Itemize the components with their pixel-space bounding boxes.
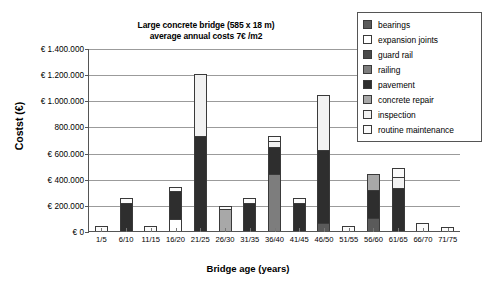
- y-axis-tick-label: 800.000: [12, 123, 89, 132]
- stacked-bar[interactable]: [194, 74, 207, 231]
- legend: bearingsexpansion jointsguard railrailin…: [357, 12, 482, 142]
- bar-segment[interactable]: [194, 136, 207, 231]
- legend-swatch-icon: [363, 80, 372, 89]
- legend-item-label: guard rail: [378, 50, 413, 60]
- bar-group: 26/30: [213, 49, 238, 231]
- bar-segment[interactable]: [317, 95, 330, 150]
- legend-item-label: railing: [378, 65, 400, 75]
- stacked-bar[interactable]: [293, 198, 306, 231]
- x-axis-tick-label: 31/35: [240, 235, 259, 244]
- legend-item[interactable]: bearings: [363, 17, 477, 32]
- legend-item-label: expansion joints: [378, 35, 438, 45]
- legend-swatch-icon: [363, 65, 372, 74]
- stacked-bar[interactable]: [367, 174, 380, 231]
- legend-swatch-icon: [363, 125, 372, 134]
- x-axis-tick-label: 6/10: [119, 235, 134, 244]
- x-axis-tick-mark: [126, 228, 127, 232]
- x-axis-tick-mark: [299, 228, 300, 232]
- bar-segment[interactable]: [293, 203, 306, 231]
- legend-item-list: bearingsexpansion jointsguard railrailin…: [363, 17, 477, 137]
- legend-item-label: routine maintenance: [378, 125, 454, 135]
- legend-swatch-icon: [363, 50, 372, 59]
- bar-segment[interactable]: [317, 150, 330, 223]
- legend-swatch-icon: [363, 20, 372, 29]
- stacked-bar[interactable]: [268, 136, 281, 231]
- bar-segment[interactable]: [392, 177, 405, 187]
- x-axis-tick-label: 66/70: [413, 235, 432, 244]
- y-axis-tick-label: € 200.000: [12, 201, 89, 210]
- legend-item[interactable]: pavement: [363, 77, 477, 92]
- x-axis-tick-mark: [101, 228, 102, 232]
- stacked-bar[interactable]: [317, 95, 330, 231]
- legend-item[interactable]: railing: [363, 62, 477, 77]
- legend-item-label: concrete repair: [378, 95, 434, 105]
- bar-segment[interactable]: [392, 188, 405, 231]
- x-axis-tick-label: 61/65: [389, 235, 408, 244]
- y-axis-tick-label: € 0: [12, 228, 89, 237]
- y-axis-tick-label: € 1.400.000: [12, 45, 89, 54]
- y-axis-tick-label: € 1.000.000: [12, 97, 89, 106]
- x-axis-tick-label: 16/20: [166, 235, 185, 244]
- legend-item-label: bearings: [378, 20, 410, 30]
- x-axis-tick-mark: [275, 228, 276, 232]
- bar-group: 46/50: [312, 49, 337, 231]
- x-axis-tick-mark: [423, 228, 424, 232]
- legend-swatch-icon: [363, 110, 372, 119]
- legend-item-label: inspection: [378, 110, 416, 120]
- bar-group: 36/40: [262, 49, 287, 231]
- bar-segment[interactable]: [243, 203, 256, 231]
- x-axis-tick-mark: [398, 228, 399, 232]
- bar-group: 21/25: [188, 49, 213, 231]
- legend-item[interactable]: inspection: [363, 107, 477, 122]
- chart-container: Large concrete bridge (585 x 18 m) avera…: [0, 0, 486, 287]
- bar-group: 31/35: [237, 49, 262, 231]
- x-axis-title: Bridge age (years): [88, 263, 408, 274]
- x-axis-tick-mark: [200, 228, 201, 232]
- legend-item-label: pavement: [378, 80, 415, 90]
- stacked-bar[interactable]: [243, 198, 256, 231]
- stacked-bar[interactable]: [120, 198, 133, 231]
- x-axis-tick-label: 41/45: [290, 235, 309, 244]
- x-axis-tick-label: 11/15: [142, 235, 160, 244]
- legend-item[interactable]: concrete repair: [363, 92, 477, 107]
- bar-segment[interactable]: [268, 174, 281, 232]
- legend-swatch-icon: [363, 35, 372, 44]
- x-axis-tick-mark: [324, 228, 325, 232]
- x-axis-tick-label: 56/60: [364, 235, 383, 244]
- legend-item[interactable]: routine maintenance: [363, 122, 477, 137]
- x-axis-tick-mark: [349, 228, 350, 232]
- legend-item[interactable]: expansion joints: [363, 32, 477, 47]
- x-axis-tick-label: 21/25: [191, 235, 210, 244]
- x-axis-tick-label: 1/5: [96, 235, 107, 244]
- x-axis-tick-label: 71/75: [438, 235, 457, 244]
- bar-group: 1/5: [89, 49, 114, 231]
- bar-segment[interactable]: [120, 203, 133, 231]
- legend-swatch-icon: [363, 95, 372, 104]
- x-axis-tick-mark: [448, 228, 449, 232]
- bar-segment[interactable]: [169, 191, 182, 219]
- x-axis-tick-label: 51/55: [339, 235, 358, 244]
- y-axis-tick-label: € 600.000: [12, 149, 89, 158]
- x-axis-tick-label: 36/40: [265, 235, 284, 244]
- y-axis-tick-label: € 1.200.000: [12, 71, 89, 80]
- bar-group: 6/10: [114, 49, 139, 231]
- bar-group: 11/15: [138, 49, 163, 231]
- bar-segment[interactable]: [392, 168, 405, 177]
- x-axis-tick-mark: [373, 228, 374, 232]
- y-axis-tick-label: € 400.000: [12, 175, 89, 184]
- bar-segment[interactable]: [367, 190, 380, 218]
- bar-group: 41/45: [287, 49, 312, 231]
- x-axis-tick-mark: [225, 228, 226, 232]
- bar-segment[interactable]: [268, 147, 281, 173]
- x-axis-tick-label: 46/50: [314, 235, 333, 244]
- bar-group: 16/20: [163, 49, 188, 231]
- chart-title: Large concrete bridge (585 x 18 m) avera…: [88, 20, 324, 42]
- x-axis-tick-mark: [250, 228, 251, 232]
- chart-title-line-1: Large concrete bridge (585 x 18 m): [88, 20, 324, 31]
- stacked-bar[interactable]: [169, 187, 182, 231]
- legend-item[interactable]: guard rail: [363, 47, 477, 62]
- bar-segment[interactable]: [367, 174, 380, 190]
- stacked-bar[interactable]: [392, 168, 405, 231]
- bar-segment[interactable]: [194, 74, 207, 135]
- x-axis-tick-mark: [151, 228, 152, 232]
